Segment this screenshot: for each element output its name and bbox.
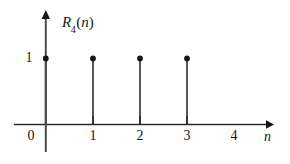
y-axis-arrowhead — [42, 10, 50, 19]
series-title-argument: n — [81, 14, 89, 30]
x-axis-tick-label-3: 3 — [177, 129, 197, 143]
stem-marker-n1 — [90, 56, 96, 62]
x-axis-name-label: n — [264, 130, 271, 144]
x-axis-tick-label-4: 4 — [224, 129, 244, 143]
series-title-base: R — [62, 14, 71, 30]
x-axis-tick-label-2: 2 — [130, 129, 150, 143]
x-axis-arrowhead — [266, 120, 274, 129]
discrete-signal-figure: R4(n) 1 0 1 2 3 4 n — [0, 0, 290, 164]
x-axis-tick-label-1: 1 — [83, 129, 103, 143]
series-title: R4(n) — [62, 15, 94, 33]
stem-marker-n3 — [184, 56, 190, 62]
x-axis-tick-label-0: 0 — [21, 129, 41, 143]
y-axis-tick-label-1: 1 — [19, 51, 39, 65]
stem-marker-n2 — [137, 56, 143, 62]
stem-marker-n0 — [43, 56, 49, 62]
series-title-subscript: 4 — [71, 24, 76, 35]
series-title-close-paren: ) — [89, 14, 94, 30]
